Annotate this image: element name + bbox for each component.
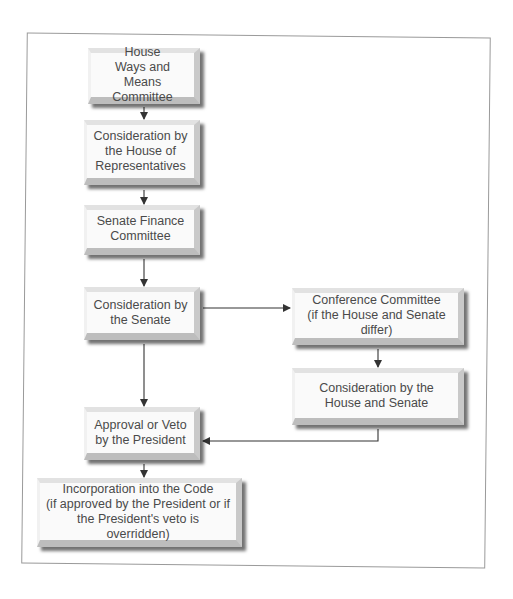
node-president-approval: Approval or Veto by the President bbox=[84, 407, 200, 460]
node-house-consideration: Consideration by the House of Representa… bbox=[84, 120, 200, 185]
node-label: Consideration by the House of Representa… bbox=[90, 129, 192, 174]
node-incorporation-code: Incorporation into the Code (if approved… bbox=[37, 478, 242, 547]
node-label: Incorporation into the Code (if approved… bbox=[40, 482, 236, 542]
node-label: Consideration by the Senate bbox=[90, 298, 192, 328]
node-label: House Ways and Means Committee bbox=[91, 45, 194, 105]
arrow-house-senate-to-president bbox=[203, 429, 378, 441]
node-senate-consideration: Consideration by the Senate bbox=[84, 287, 200, 340]
node-house-senate-consideration: Consideration by the House and Senate bbox=[292, 368, 464, 425]
node-label: Conference Committee (if the House and S… bbox=[295, 293, 458, 338]
node-senate-finance: Senate Finance Committee bbox=[84, 205, 200, 255]
node-label: Senate Finance Committee bbox=[93, 214, 189, 244]
node-label: Approval or Veto by the President bbox=[90, 418, 190, 448]
node-conference-committee: Conference Committee (if the House and S… bbox=[292, 288, 464, 345]
node-label: Consideration by the House and Senate bbox=[315, 381, 438, 411]
node-house-ways-and-means: House Ways and Means Committee bbox=[88, 48, 200, 104]
